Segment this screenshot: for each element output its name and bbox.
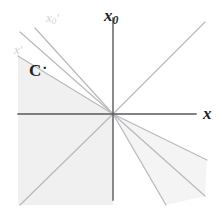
x0-prime-ray-label: x0′: [46, 11, 59, 25]
cone-diagram-figure: x0 x x0′ x′ C·: [0, 0, 222, 216]
cone-region-label: C·: [29, 62, 46, 79]
ray-upper-right: [113, 22, 205, 114]
x-prime-mark: ′: [20, 43, 23, 57]
x0-prime-mark: ′: [56, 11, 59, 25]
x0-axis-label-subscript: 0: [113, 14, 119, 27]
cone-point-marker: ·: [42, 60, 47, 76]
x0-prime-subscript: 0: [52, 16, 56, 26]
x0-axis-label: x0: [104, 7, 118, 24]
dual-cone-region-lower-right: [113, 114, 207, 205]
cone-label-letter: C: [29, 61, 41, 80]
x0-axis-label-base: x: [104, 6, 113, 25]
diagram-canvas: [0, 0, 222, 216]
x-prime-ray-label: x′: [14, 43, 22, 57]
x0-prime-base: x: [46, 10, 52, 25]
x-axis-label: x: [203, 105, 212, 122]
